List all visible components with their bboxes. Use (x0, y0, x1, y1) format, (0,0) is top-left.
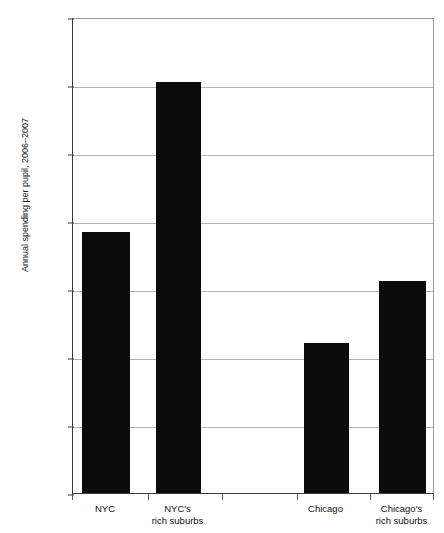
x-axis-category-label: Chicago'srich suburbs (376, 503, 428, 526)
x-axis-tick-mark (148, 494, 149, 500)
x-axis-category-label: Chicago (308, 503, 343, 515)
x-axis-category-label: NYC (95, 503, 115, 515)
x-axis-category-label-line2: rich suburbs (152, 515, 204, 527)
y-axis-tick-mark (68, 359, 74, 360)
bar (82, 232, 130, 493)
x-axis-category-label-line1: NYC (95, 503, 115, 514)
gridline (73, 87, 433, 88)
x-axis-tick-mark (370, 494, 371, 500)
y-axis-tick-mark (68, 223, 74, 224)
y-axis-tick-mark (68, 427, 74, 428)
gridline (73, 223, 433, 224)
x-axis-tick-mark (433, 494, 434, 500)
cropped-title-remnant (110, 0, 340, 3)
bar (379, 281, 426, 493)
x-axis-category-label-line1: Chicago (308, 503, 343, 514)
y-axis-tick-mark (68, 87, 74, 88)
y-axis-title: Annual spending per pupil, 2006–2007 (20, 95, 30, 295)
bar (304, 343, 349, 493)
x-axis-category-label-line2: rich suburbs (376, 515, 428, 527)
plot-area: $35,000$30,000$25,000$20,000$15,000$10,0… (72, 18, 434, 494)
x-axis-tick-mark (72, 494, 73, 500)
x-axis-tick-mark (222, 494, 223, 500)
y-axis-tick-mark (68, 155, 74, 156)
bar-chart: Annual spending per pupil, 2006–2007 $35… (0, 0, 444, 533)
bar (156, 82, 201, 493)
gridline (73, 155, 433, 156)
x-axis-category-label: NYC'srich suburbs (152, 503, 204, 526)
x-axis-category-label-line1: NYC's (164, 503, 191, 514)
y-axis-tick-mark (68, 291, 74, 292)
y-axis-tick-mark (68, 19, 74, 20)
x-axis-group: NYCNYC'srich suburbsChicagoChicago'srich… (72, 494, 434, 533)
x-axis-category-label-line1: Chicago's (381, 503, 422, 514)
x-axis-tick-mark (297, 494, 298, 500)
